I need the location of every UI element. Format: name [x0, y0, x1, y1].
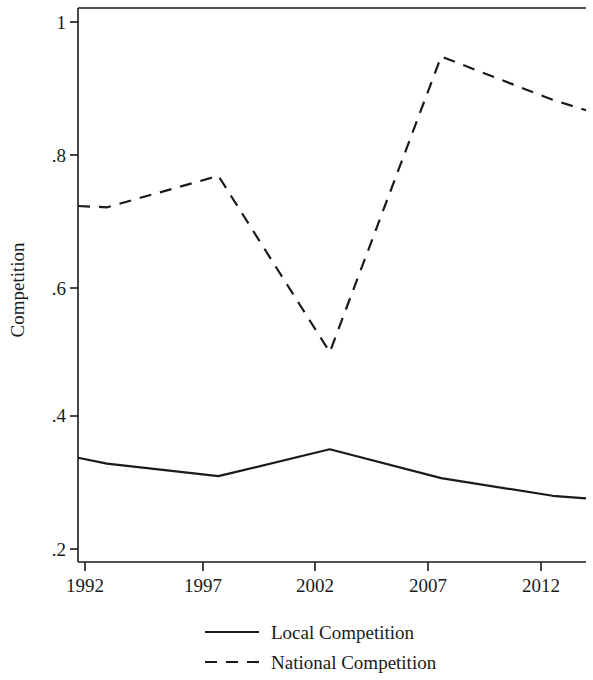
x-tick-label-2012: 2012	[522, 575, 560, 596]
y-tick-label-02: .2	[52, 539, 66, 560]
y-tick-label-04: .4	[52, 405, 67, 426]
x-tick-label-2007: 2007	[409, 575, 447, 596]
y-tick-label-08: .8	[52, 145, 66, 166]
chart-canvas: Competition 1 .8 .6 .4 .2 1992 1997 2002…	[0, 0, 593, 680]
legend-label-local: Local Competition	[271, 622, 415, 643]
y-tick-label-1: 1	[57, 12, 67, 33]
x-tick-label-2002: 2002	[296, 575, 334, 596]
series-line-local-competition	[78, 449, 586, 498]
y-axis-title: Competition	[7, 242, 28, 338]
legend-label-national: National Competition	[271, 652, 437, 673]
x-tick-label-1997: 1997	[184, 575, 222, 596]
competition-line-chart: Competition 1 .8 .6 .4 .2 1992 1997 2002…	[0, 0, 593, 680]
x-tick-label-1992: 1992	[66, 575, 104, 596]
series-line-national-competition	[78, 57, 586, 353]
y-tick-label-06: .6	[52, 278, 66, 299]
